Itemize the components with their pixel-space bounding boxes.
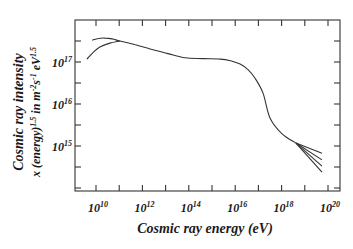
x-tick-labels: 101010121014101610181020 (88, 200, 340, 215)
plot-frame (75, 20, 340, 191)
uncertainty-fan-line (296, 143, 322, 166)
axis-ticks (75, 20, 340, 191)
y-tick-labels: 101710161015 (52, 55, 73, 154)
y-tick-label: 1016 (52, 97, 72, 112)
y-tick-label: 1017 (52, 55, 73, 70)
y-axis-title: Cosmic ray intensity (11, 52, 26, 170)
plot-border (75, 20, 340, 191)
y-axis-title-units: x (energy)1.5 in m-2s-1 eV1.5 (29, 47, 43, 178)
x-tick-label: 1018 (274, 200, 294, 215)
solar-max-branch-line (87, 41, 120, 59)
y-axis-title-line1: Cosmic ray intensity (11, 52, 26, 170)
x-tick-label: 1016 (227, 200, 247, 215)
x-tick-label: 1014 (181, 200, 201, 215)
x-tick-label: 1012 (134, 200, 154, 215)
y-tick-label: 1015 (52, 139, 72, 154)
y-axis-title-line2: x (energy)1.5 in m-2s-1 eV1.5 (29, 47, 43, 178)
main-spectrum-line (92, 38, 296, 143)
spectrum-curves (87, 38, 322, 172)
x-axis-title: Cosmic ray energy (eV) (137, 221, 273, 237)
x-tick-label: 1010 (88, 200, 108, 215)
x-tick-label: 1020 (320, 200, 340, 215)
cosmic-ray-spectrum-chart: 101010121014101610181020 101710161015 Co… (0, 0, 353, 249)
